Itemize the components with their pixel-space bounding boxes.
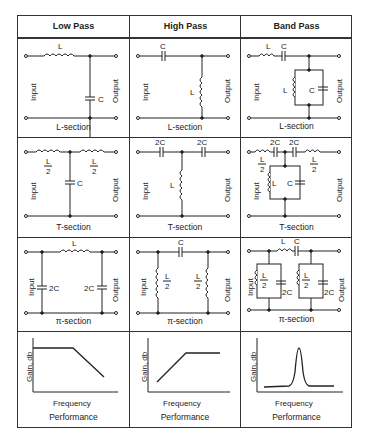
header-high-pass: High Pass: [130, 16, 241, 37]
lowpass-performance: Gain, db Frequency Performance: [18, 332, 129, 429]
bandpass-pi-section: L C L 2 2C L 2 2C Input Output π-section: [241, 238, 352, 331]
input-label: Input: [141, 82, 150, 101]
inductor-label: L: [165, 272, 170, 281]
inductor-label: L: [58, 42, 63, 51]
section-caption: π-section: [130, 316, 240, 326]
section-caption: Performance: [241, 412, 352, 422]
inductor-label: L: [262, 271, 267, 280]
output-label: Output: [335, 78, 344, 103]
capacitor-label: C: [287, 179, 293, 188]
bandpass-performance: Gain, db Frequency Performance: [241, 332, 352, 429]
filter-table: Low Pass High Pass Band Pass L C Input O…: [17, 15, 352, 428]
capacitor-label: 2C: [289, 138, 299, 147]
capacitor-label: C: [160, 42, 166, 51]
capacitor-label: 2C: [282, 288, 292, 297]
output-label: Output: [111, 277, 120, 302]
input-label: Input: [27, 277, 36, 296]
output-label: Output: [335, 177, 344, 202]
gain-axis-label: Gain, db: [249, 351, 258, 382]
bandpass-l-section: L C L C Input Output L-section: [241, 39, 352, 137]
half-label: 2: [260, 165, 265, 174]
inductor-label: L: [190, 88, 195, 97]
inductor-label: L: [46, 157, 51, 166]
capacitor-label: 2C: [49, 284, 59, 293]
capacitor-label: C: [309, 86, 315, 95]
frequency-axis-label: Frequency: [275, 399, 313, 408]
lowpass-l-section: L C Input Output L-section: [18, 39, 129, 137]
inductor-label: L: [92, 157, 97, 166]
section-caption: L-section: [241, 121, 352, 131]
capacitor-label: 2C: [155, 138, 165, 147]
lowpass-t-section: L 2 L 2 C Input Output T-section: [18, 138, 129, 237]
half-label: 2: [46, 167, 51, 176]
highpass-pi-section: C L 2 L 2 Input Output π-section: [130, 238, 240, 331]
header-band-pass: Band Pass: [241, 16, 352, 37]
inductor-label: L: [170, 181, 175, 190]
input-label: Input: [252, 181, 261, 200]
section-caption: Performance: [130, 412, 240, 422]
section-caption: π-section: [18, 316, 129, 326]
half-label: 2: [92, 167, 97, 176]
section-caption: T-section: [18, 222, 129, 232]
capacitor-label: C: [294, 238, 300, 246]
output-label: Output: [337, 277, 346, 302]
capacitor-label: 2C: [84, 284, 94, 293]
half-label: 2: [262, 281, 267, 290]
frequency-axis-label: Frequency: [53, 399, 91, 408]
gain-axis-label: Gain, db: [140, 351, 149, 382]
inductor-label: L: [72, 239, 77, 248]
inductor-label: L: [196, 272, 201, 281]
input-label: Input: [252, 82, 261, 101]
section-caption: Performance: [18, 412, 129, 422]
half-label: 2: [304, 281, 309, 290]
half-label: 2: [312, 165, 317, 174]
input-label: Input: [29, 181, 38, 200]
header-low-pass: Low Pass: [18, 16, 129, 37]
capacitor-label: 2C: [324, 288, 334, 297]
gain-axis-label: Gain, db: [25, 351, 34, 382]
output-label: Output: [223, 177, 232, 202]
section-caption: T-section: [130, 222, 240, 232]
input-label: Input: [246, 277, 255, 296]
inductor-label: L: [312, 155, 317, 164]
inductor-label: L: [281, 238, 286, 246]
frequency-axis-label: Frequency: [163, 399, 201, 408]
capacitor-label: C: [281, 42, 287, 51]
capacitor-label: C: [98, 95, 104, 104]
highpass-t-section: 2C 2C L Input Output T-section: [130, 138, 240, 237]
half-label: 2: [196, 282, 201, 291]
capacitor-label: 2C: [270, 138, 280, 147]
inductor-label: L: [266, 42, 271, 51]
section-caption: L-section: [18, 122, 129, 132]
input-label: Input: [29, 82, 38, 101]
capacitor-label: C: [77, 179, 83, 188]
output-label: Output: [111, 177, 120, 202]
section-caption: π-section: [241, 314, 352, 324]
inductor-label: L: [304, 271, 309, 280]
inductor-label: L: [272, 179, 277, 188]
lowpass-pi-section: L 2C 2C Input Output π-section: [18, 238, 129, 331]
inductor-label: L: [260, 155, 265, 164]
half-label: 2: [165, 282, 170, 291]
section-caption: T-section: [241, 222, 352, 232]
capacitor-label: 2C: [197, 138, 207, 147]
highpass-l-section: C L Input Output L-section: [130, 39, 240, 137]
bandpass-t-section: 2C 2C L 2 L 2 L C Input Output T-section: [241, 138, 352, 237]
inductor-label: L: [283, 86, 288, 95]
section-caption: L-section: [130, 122, 240, 132]
input-label: Input: [141, 181, 150, 200]
capacitor-label: C: [178, 238, 184, 247]
output-label: Output: [223, 78, 232, 103]
highpass-performance: Gain, db Frequency Performance: [130, 332, 240, 429]
input-label: Input: [139, 277, 148, 296]
output-label: Output: [111, 78, 120, 103]
output-label: Output: [223, 277, 232, 302]
